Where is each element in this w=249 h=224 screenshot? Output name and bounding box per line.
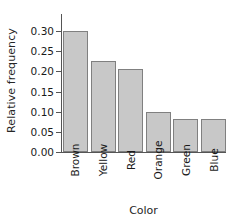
bar bbox=[201, 119, 226, 152]
y-axis-tick-label: 0.05 bbox=[18, 127, 54, 137]
plot-area bbox=[62, 14, 227, 152]
x-axis-title: Color bbox=[61, 204, 226, 217]
y-axis-title-label: Relative frequency bbox=[5, 28, 18, 133]
bar bbox=[118, 69, 143, 152]
y-axis-tick-label: 0.30 bbox=[18, 26, 54, 36]
bar-chart-figure: Relative frequency 0.000.050.100.150.200… bbox=[0, 0, 249, 224]
x-axis-tick-label-text: Blue bbox=[207, 148, 219, 171]
x-axis-line bbox=[61, 152, 226, 153]
bar bbox=[63, 31, 88, 152]
y-axis-tick-label: 0.20 bbox=[18, 66, 54, 76]
y-axis-tick-label: 0.15 bbox=[18, 87, 54, 97]
y-axis-tick-label: 0.10 bbox=[18, 107, 54, 117]
y-axis-tick-labels: 0.000.050.100.150.200.250.30 bbox=[18, 0, 54, 224]
y-axis-tick-label: 0.25 bbox=[18, 46, 54, 56]
x-axis-tick-labels: BrownYellowRedOrangeGreenBlue bbox=[62, 154, 227, 202]
x-axis-tick-label: Blue bbox=[189, 154, 237, 202]
bar bbox=[91, 61, 116, 152]
y-axis-tick-label: 0.00 bbox=[18, 147, 54, 157]
